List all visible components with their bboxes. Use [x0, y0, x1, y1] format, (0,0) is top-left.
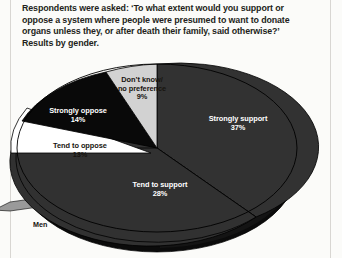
figure-frame: Respondents were asked: ‘To what extent … — [0, 0, 342, 258]
slice-label-tend-to-oppose: Tend to oppose 13% — [33, 142, 127, 159]
slice-label-tend-to-support: Tend to support 28% — [112, 181, 208, 198]
slice-label-strongly-oppose: Strongly oppose 14% — [27, 107, 129, 124]
chart-group-caption: Men — [33, 220, 47, 229]
question-text: Respondents were asked: ‘To what extent … — [22, 3, 328, 49]
pie-chart: Don’t know/ no preference 9% Strongly op… — [0, 52, 342, 258]
slice-label-dont-know: Don’t know/ no preference 9% — [106, 76, 178, 102]
slice-label-strongly-support: Strongly support 37% — [186, 115, 290, 132]
